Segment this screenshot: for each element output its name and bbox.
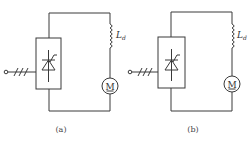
top-wire-b	[171, 12, 232, 37]
inductor-icon	[110, 24, 112, 48]
thyristor-icon	[165, 49, 180, 81]
panel-a: Ld M (a)	[4, 13, 126, 134]
ac-input-a	[4, 68, 36, 76]
top-wire-a	[49, 13, 110, 38]
svg-text:Ld: Ld	[115, 30, 126, 41]
motor-label: M	[227, 80, 236, 90]
ac-input-b	[128, 68, 158, 76]
thyristor-icon	[42, 50, 57, 82]
caption-b: (b)	[187, 125, 198, 134]
caption-a: (a)	[55, 125, 66, 134]
panel-b: Ld M (b)	[128, 12, 247, 134]
bottom-wire-b	[171, 88, 232, 111]
motor-label: M	[105, 82, 114, 92]
bottom-wire-a	[49, 89, 110, 111]
inductor-label: L	[236, 30, 243, 40]
inductor-icon	[232, 24, 234, 48]
svg-text:Ld: Ld	[236, 30, 247, 41]
circuit-diagram: Ld M (a) Ld M (b)	[0, 0, 251, 144]
inductor-label: L	[115, 30, 122, 40]
